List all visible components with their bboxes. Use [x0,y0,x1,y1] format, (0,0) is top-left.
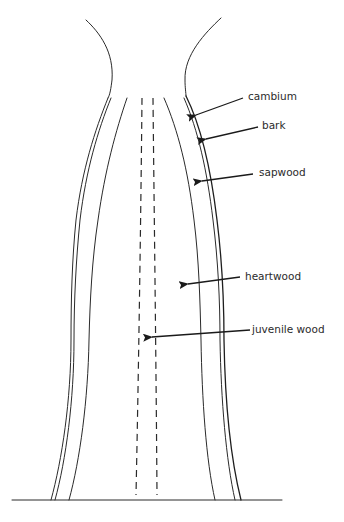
right-cambium-line [184,98,235,500]
left-heartwood-boundary [69,98,127,500]
label-cambium: cambium [248,91,297,102]
heartwood-arrow [188,277,240,284]
cambium-arrow [196,98,243,115]
label-sapwood: sapwood [259,167,306,178]
left-top-curve [86,20,112,98]
bark-arrow [206,127,258,139]
right-top-curve [185,18,221,96]
label-bark: bark [262,120,286,131]
left-juvenile-wood-line [136,98,142,495]
label-heartwood: heartwood [245,271,301,282]
right-bark-line [186,96,241,500]
right-juvenile-wood-line [153,98,157,495]
label-juvenile-wood: juvenile wood [252,324,325,335]
tree-stem-diagram [0,0,344,522]
left-bark-line [51,98,108,500]
